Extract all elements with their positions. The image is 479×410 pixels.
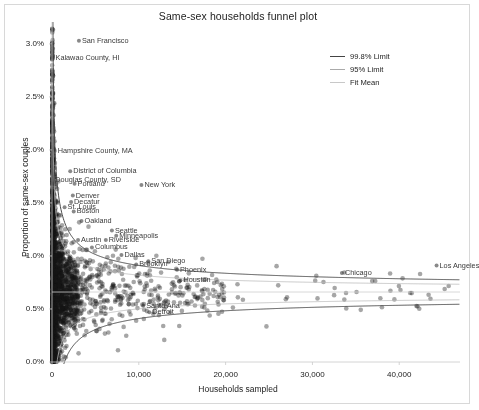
point-label: Kalawao County, HI: [56, 53, 120, 62]
legend-swatch: [330, 82, 345, 83]
point-label: Hampshire County, MA: [58, 146, 133, 155]
legend-swatch: [330, 56, 345, 57]
point-label: Detroit: [152, 307, 174, 316]
point-label: Chicago: [345, 268, 372, 277]
y-tick-label: 3.0%: [12, 39, 44, 48]
y-tick-label: 2.5%: [12, 92, 44, 101]
legend-label: Fit Mean: [350, 78, 380, 87]
x-tick-label: 40,000: [369, 370, 429, 379]
y-tick-label: 0.0%: [12, 357, 44, 366]
chart-title: Same-sex households funnel plot: [0, 10, 476, 22]
legend-label: 95% Limit: [350, 65, 383, 74]
point-label: New York: [144, 180, 175, 189]
point-label: Columbus: [95, 242, 128, 251]
y-tick-label: 2.0%: [12, 145, 44, 154]
legend-swatch: [330, 69, 345, 70]
x-tick-label: 20,000: [196, 370, 256, 379]
point-label: San Francisco: [82, 36, 129, 45]
point-label: Brooklyn: [139, 259, 167, 268]
point-label: Phoenix: [180, 265, 206, 274]
point-label: Los Angeles: [440, 261, 479, 270]
x-tick-label: 0: [22, 370, 82, 379]
point-label: Portland: [78, 179, 105, 188]
y-tick-label: 0.5%: [12, 304, 44, 313]
x-tick-label: 10,000: [109, 370, 169, 379]
y-tick-label: 1.0%: [12, 251, 44, 260]
point-label: Oakland: [85, 216, 112, 225]
point-label: Boston: [77, 206, 100, 215]
y-tick-label: 1.5%: [12, 198, 44, 207]
x-tick-label: 30,000: [282, 370, 342, 379]
point-label: Houston: [183, 275, 210, 284]
x-axis-label: Households sampled: [0, 384, 476, 394]
point-label: Dallas: [124, 250, 144, 259]
legend-label: 99.8% Limit: [350, 52, 390, 61]
